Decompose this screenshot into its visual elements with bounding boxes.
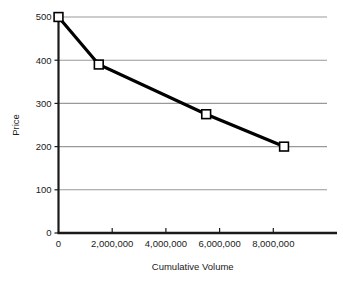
data-point-marker (54, 13, 63, 22)
y-tick-label: 500 (36, 11, 52, 22)
data-series-line (59, 17, 285, 147)
y-tick-label: 200 (36, 141, 52, 152)
y-tick-label: 400 (36, 55, 52, 66)
x-tick-label: 6,000,000 (198, 238, 240, 249)
data-point-marker (94, 60, 103, 69)
y-axis-title: Price (10, 114, 21, 136)
y-tick-label: 300 (36, 98, 52, 109)
y-tick-label: 100 (36, 184, 52, 195)
x-tick-label: 0 (56, 238, 61, 249)
price-volume-chart: 010020030040050002,000,0004,000,0006,000… (0, 0, 343, 283)
x-tick-label: 2,000,000 (91, 238, 133, 249)
x-axis-title: Cumulative Volume (152, 261, 234, 272)
data-point-marker (280, 142, 289, 151)
y-tick-label: 0 (46, 227, 51, 238)
x-tick-label: 4,000,000 (145, 238, 187, 249)
x-tick-label: 8,000,000 (252, 238, 294, 249)
data-point-marker (202, 110, 211, 119)
chart-canvas: 010020030040050002,000,0004,000,0006,000… (0, 0, 343, 283)
